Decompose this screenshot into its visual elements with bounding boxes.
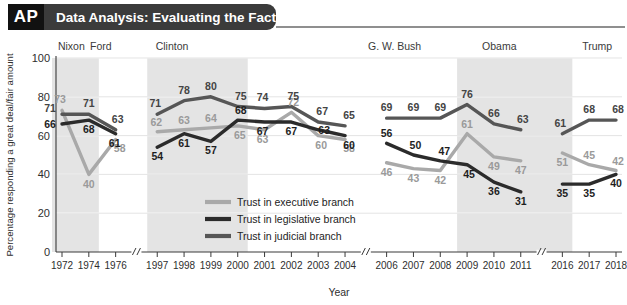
data-label: 45 xyxy=(463,168,475,180)
legend-label: Trust in legislative branch xyxy=(237,213,356,225)
data-label: 36 xyxy=(488,185,500,197)
data-label: 75 xyxy=(235,90,247,102)
data-label: 57 xyxy=(205,144,217,156)
legend-label: Trust in judicial branch xyxy=(237,230,342,242)
era-label: Ford xyxy=(90,40,112,52)
data-label: 40 xyxy=(610,177,622,189)
data-label: 31 xyxy=(515,195,527,207)
chart-page: AP Data Analysis: Evaluating the Facts 0… xyxy=(0,0,627,305)
x-tick-label: 2009 xyxy=(456,260,479,271)
chart-container: 020406080100Percentage responding a grea… xyxy=(0,30,627,305)
data-label: 43 xyxy=(408,172,420,184)
y-tick-label: 20 xyxy=(38,207,50,219)
x-tick-label: 1997 xyxy=(146,260,169,271)
era-labels: NixonFordClintonG. W. BushObamaTrump xyxy=(58,40,612,52)
data-label: 68 xyxy=(612,103,624,115)
data-label: 75 xyxy=(288,90,300,102)
x-tick-label: 1999 xyxy=(200,260,223,271)
x-tick-label: 2007 xyxy=(402,260,425,271)
data-label: 78 xyxy=(178,84,190,96)
data-label: 61 xyxy=(555,117,567,129)
data-label: 47 xyxy=(438,145,450,157)
data-label: 50 xyxy=(410,139,422,151)
era-label: G. W. Bush xyxy=(368,40,421,52)
era-band xyxy=(457,58,572,252)
data-label: 71 xyxy=(149,97,161,109)
x-tick-label: 2008 xyxy=(429,260,452,271)
x-tick-label: 1976 xyxy=(105,260,128,271)
x-tick-label: 2010 xyxy=(483,260,506,271)
y-tick-label: 40 xyxy=(38,168,50,180)
data-label: 73 xyxy=(54,93,66,105)
x-tick-label: 2018 xyxy=(605,260,627,271)
ap-logo: AP xyxy=(8,4,44,30)
data-label: 64 xyxy=(205,112,217,124)
data-label: 61 xyxy=(109,137,121,149)
data-label: 63 xyxy=(318,124,330,136)
y-tick-label: 80 xyxy=(38,91,50,103)
data-label: 69 xyxy=(434,101,446,113)
axis-break-marker xyxy=(131,248,141,255)
y-axis: 020406080100Percentage responding a grea… xyxy=(4,52,56,258)
data-label: 65 xyxy=(343,109,355,121)
data-label: 61 xyxy=(178,137,190,149)
data-label: 46 xyxy=(381,166,393,178)
data-label: 61 xyxy=(461,118,473,130)
data-label: 63 xyxy=(178,114,190,126)
legend: Trust in executive branchTrust in legisl… xyxy=(205,196,356,242)
data-label: 71 xyxy=(83,97,95,109)
y-axis-title: Percentage responding a great deal/fair … xyxy=(4,53,15,257)
data-label: 71 xyxy=(44,102,56,114)
x-axis: 1972197419761997199819992000200120022003… xyxy=(51,248,627,298)
data-label: 60 xyxy=(343,139,355,151)
era-label: Trump xyxy=(582,40,612,52)
era-label: Obama xyxy=(482,40,517,52)
y-tick-label: 100 xyxy=(32,52,50,64)
x-tick-label: 1972 xyxy=(51,260,74,271)
data-label: 62 xyxy=(150,116,162,128)
data-label: 56 xyxy=(381,127,393,139)
header-bar: AP Data Analysis: Evaluating the Facts xyxy=(0,4,627,30)
data-label: 66 xyxy=(488,107,500,119)
data-label: 49 xyxy=(488,160,500,172)
data-label: 35 xyxy=(557,187,569,199)
y-tick-label: 60 xyxy=(38,130,50,142)
x-tick-label: 1998 xyxy=(173,260,196,271)
data-label: 42 xyxy=(434,174,446,186)
page-title: Data Analysis: Evaluating the Facts xyxy=(56,4,284,30)
data-label: 51 xyxy=(557,156,569,168)
x-tick-label: 2011 xyxy=(510,260,532,271)
header-divider xyxy=(276,26,625,28)
axis-break-marker xyxy=(361,248,371,255)
x-tick-label: 2006 xyxy=(375,260,398,271)
data-label: 80 xyxy=(205,80,217,92)
x-tick-label: 2003 xyxy=(307,260,330,271)
era-label: Clinton xyxy=(156,40,189,52)
data-label: 67 xyxy=(286,125,298,137)
x-axis-title: Year xyxy=(328,286,350,298)
data-label: 35 xyxy=(583,187,595,199)
data-label: 69 xyxy=(381,101,393,113)
data-label: 47 xyxy=(515,164,527,176)
data-label: 63 xyxy=(112,113,124,125)
x-tick-label: 2004 xyxy=(334,260,357,271)
data-label: 60 xyxy=(315,139,327,151)
era-band xyxy=(52,58,99,252)
data-label: 54 xyxy=(151,150,163,162)
data-label: 66 xyxy=(44,118,56,130)
data-label: 69 xyxy=(408,101,420,113)
data-label: 68 xyxy=(235,104,247,116)
data-label: 68 xyxy=(583,103,595,115)
data-label: 63 xyxy=(517,113,529,125)
x-tick-label: 2001 xyxy=(253,260,276,271)
x-tick-label: 2017 xyxy=(578,260,601,271)
data-label: 45 xyxy=(583,149,595,161)
data-label: 67 xyxy=(257,125,269,137)
line-chart: 020406080100Percentage responding a grea… xyxy=(0,30,627,305)
x-tick-label: 2016 xyxy=(551,260,574,271)
data-label: 76 xyxy=(461,88,473,100)
era-label: Nixon xyxy=(58,40,85,52)
data-label: 67 xyxy=(316,105,328,117)
y-tick-label: 0 xyxy=(44,246,50,258)
data-label: 42 xyxy=(612,155,624,167)
